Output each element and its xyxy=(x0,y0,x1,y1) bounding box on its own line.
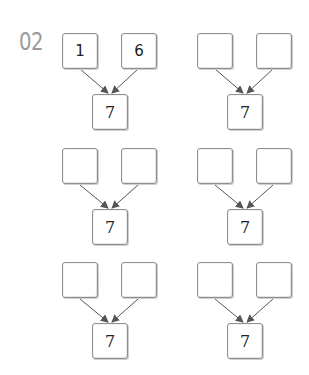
whole-box: 7 xyxy=(227,209,263,245)
number-bond-3: 7 xyxy=(62,148,162,248)
part-right-input[interactable] xyxy=(121,148,157,184)
part-left-input[interactable] xyxy=(197,262,233,298)
part-right-input[interactable] xyxy=(256,148,292,184)
number-bond-2: 7 xyxy=(197,33,297,133)
part-left-input[interactable]: 1 xyxy=(62,33,98,69)
number-bond-5: 7 xyxy=(62,262,162,362)
whole-box: 7 xyxy=(227,94,263,130)
whole-box: 7 xyxy=(92,209,128,245)
number-bond-1: 1 6 7 xyxy=(62,33,162,133)
part-left-input[interactable] xyxy=(62,148,98,184)
part-right-input[interactable] xyxy=(256,33,292,69)
part-left-input[interactable] xyxy=(197,33,233,69)
part-right-input[interactable]: 6 xyxy=(121,33,157,69)
number-bond-6: 7 xyxy=(197,262,297,362)
whole-box: 7 xyxy=(227,323,263,359)
whole-box: 7 xyxy=(92,323,128,359)
exercise-number: 02 xyxy=(19,28,43,56)
part-left-input[interactable] xyxy=(62,262,98,298)
part-right-input[interactable] xyxy=(121,262,157,298)
number-bond-4: 7 xyxy=(197,148,297,248)
part-left-input[interactable] xyxy=(197,148,233,184)
whole-box: 7 xyxy=(92,94,128,130)
part-right-input[interactable] xyxy=(256,262,292,298)
